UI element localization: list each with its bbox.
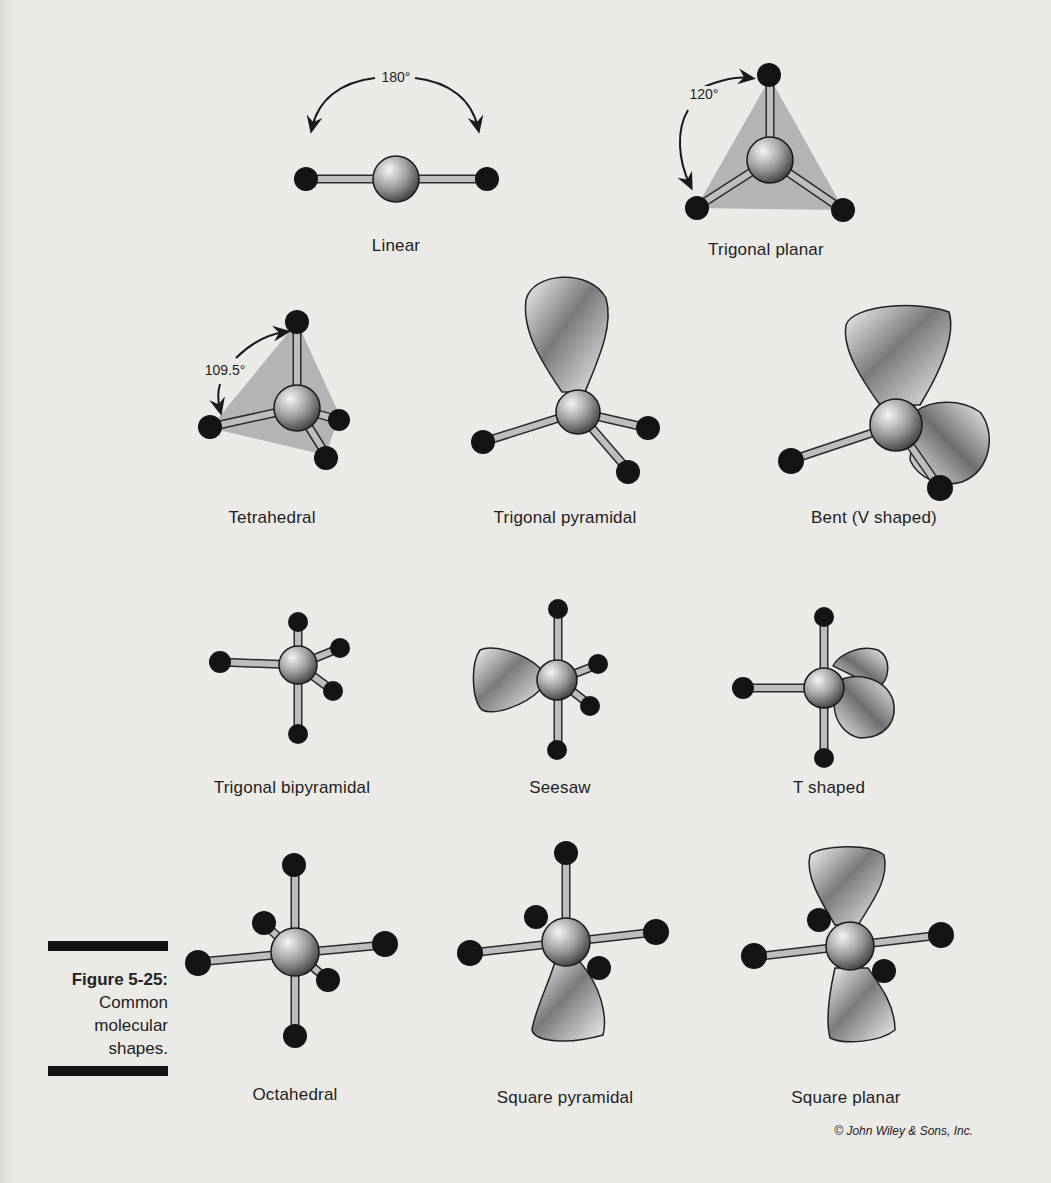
linear-molecule [294,78,499,202]
figure-caption: Figure 5-25: Common molecular shapes. [40,968,168,1060]
shape-label-trigonal-planar: Trigonal planar [708,240,824,260]
square-planar-molecule [741,847,954,1042]
seesaw-molecule [473,599,608,760]
angle-label-linear: 180° [380,69,413,85]
caption-top-rule [48,941,168,951]
shape-label-linear: Linear [372,236,420,256]
shape-label-octahedral: Octahedral [252,1085,337,1105]
tetrahedral-molecule [198,310,350,470]
caption-line-1: Common [40,991,168,1014]
bent-molecule [778,306,989,501]
trigonal-pyramidal-molecule [471,277,660,484]
shape-label-trigonal-pyramidal: Trigonal pyramidal [494,508,637,528]
shape-label-square-pyramidal: Square pyramidal [497,1088,633,1108]
shape-label-tetrahedral: Tetrahedral [228,508,315,528]
shape-label-bent: Bent (V shaped) [811,508,937,528]
shape-label-trigonal-bipyramidal: Trigonal bipyramidal [214,778,370,798]
t-shaped-molecule [732,607,894,768]
shape-label-square-planar: Square planar [791,1088,900,1108]
caption-line-3: shapes. [40,1037,168,1060]
figure-number: Figure 5-25: [40,968,168,991]
angle-label-trigonal-planar: 120° [688,86,721,102]
copyright-credit: © John Wiley & Sons, Inc. [834,1124,973,1138]
trigonal-bipyramidal-molecule [209,612,350,744]
caption-line-2: molecular [40,1014,168,1037]
shape-label-seesaw: Seesaw [529,778,591,798]
caption-bottom-rule [48,1066,168,1076]
shape-label-t-shaped: T shaped [793,778,865,798]
square-pyramidal-molecule [457,841,669,1041]
angle-label-tetrahedral: 109.5° [203,362,248,378]
octahedral-molecule [185,853,398,1048]
